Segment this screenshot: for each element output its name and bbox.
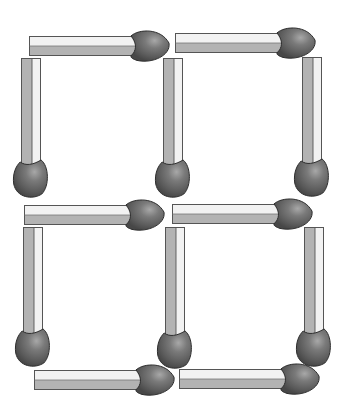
matchstick-mid-right-h[interactable] <box>172 196 314 232</box>
matchstick-bot-mid-v[interactable] <box>157 227 193 371</box>
matchstick-bot-left-v[interactable] <box>15 227 51 369</box>
matchstick-top-mid-v[interactable] <box>155 58 191 200</box>
matchstick-bot-left-h[interactable] <box>34 362 176 398</box>
matchstick-bot-right-v[interactable] <box>296 227 332 369</box>
matchstick-top-right-h[interactable] <box>175 25 317 61</box>
matchstick-puzzle <box>0 0 351 419</box>
matchstick-top-right-v[interactable] <box>294 57 330 199</box>
matchstick-top-left-v[interactable] <box>13 58 49 200</box>
matchstick-top-left-h[interactable] <box>29 28 171 64</box>
matchstick-bot-right-h[interactable] <box>179 361 321 397</box>
